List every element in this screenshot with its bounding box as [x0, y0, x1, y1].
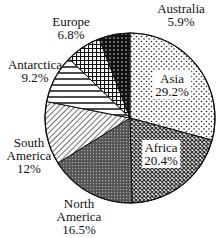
label-south-america: South America 12%: [7, 136, 52, 175]
label-asia-pct: 29.2%: [155, 85, 189, 98]
pie-chart: [0, 0, 216, 238]
label-europe-pct: 6.8%: [52, 28, 90, 41]
label-north-america-pct: 16.5%: [57, 223, 102, 236]
label-antarctica: Antarctica 9.2%: [8, 58, 62, 84]
label-asia: Asia 29.2%: [153, 71, 191, 99]
label-africa-pct: 20.4%: [144, 154, 178, 167]
label-australia-pct: 5.9%: [157, 15, 205, 28]
label-south-america-pct: 12%: [7, 162, 52, 175]
label-europe: Europe 6.8%: [52, 15, 90, 41]
label-australia: Australia 5.9%: [157, 2, 205, 28]
label-antarctica-pct: 9.2%: [8, 71, 62, 84]
label-north-america: North America 16.5%: [57, 197, 102, 236]
label-africa: Africa 20.4%: [142, 140, 180, 168]
